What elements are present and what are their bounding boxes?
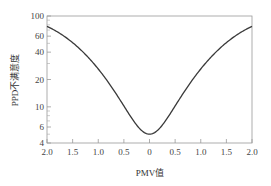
y-axis-ticks: 1006040201064: [31, 11, 52, 148]
y-tick-label: 20: [35, 75, 45, 85]
ppd-pmv-chart: 1006040201064 2.01.51.00.500.51.01.52.0 …: [0, 0, 271, 186]
x-tick-label: 1.0: [195, 147, 207, 157]
ppd-curve: [47, 26, 252, 134]
x-tick-label: 2.0: [246, 147, 258, 157]
x-tick-label: 0.5: [118, 147, 130, 157]
x-tick-label: 0.5: [170, 147, 182, 157]
y-tick-label: 100: [31, 11, 45, 21]
x-axis-ticks: 2.01.51.00.500.51.01.52.0: [41, 139, 258, 157]
y-axis-title: PPD不满意度: [9, 54, 20, 107]
y-tick-label: 10: [35, 102, 45, 112]
x-tick-label: 1.5: [221, 147, 233, 157]
plot-frame: [47, 16, 252, 143]
y-tick-label: 6: [40, 122, 45, 132]
x-axis-title: PMV值: [136, 167, 165, 178]
x-tick-label: 1.0: [93, 147, 105, 157]
y-tick-label: 40: [35, 47, 45, 57]
x-tick-label: 1.5: [67, 147, 79, 157]
x-tick-label: 0: [147, 147, 152, 157]
x-tick-label: 2.0: [41, 147, 53, 157]
y-tick-label: 60: [35, 31, 45, 41]
